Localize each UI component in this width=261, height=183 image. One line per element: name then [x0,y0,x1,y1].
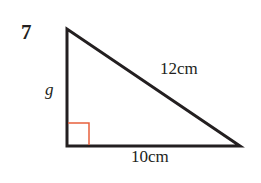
base-label: 10cm [131,147,169,167]
triangle [67,29,240,146]
problem-number: 7 [21,20,32,45]
hypotenuse-label: 12cm [160,59,198,79]
right-angle-marker [68,123,89,145]
vertical-side-label: g [45,80,54,100]
